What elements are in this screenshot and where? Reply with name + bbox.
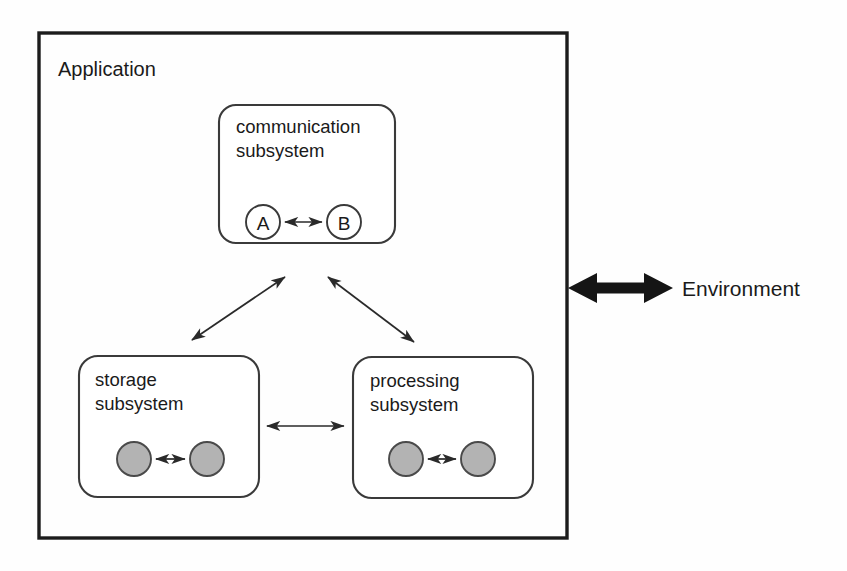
processing-subsystem-label-line2: subsystem xyxy=(370,394,458,415)
processing-subsystem-label-line1: processing xyxy=(370,370,459,391)
storage-subsystem-label-line1: storage xyxy=(95,369,157,390)
communication-subsystem[interactable]: communication subsystem A B xyxy=(219,105,395,243)
communication-processing-connector-arrow xyxy=(328,277,414,342)
communication-subsystem-label-line2: subsystem xyxy=(236,140,324,161)
storage-subsystem-label-line2: subsystem xyxy=(95,393,183,414)
storage-node-1-circle[interactable] xyxy=(117,442,151,476)
communication-storage-connector-arrow xyxy=(192,277,285,340)
application-label: Application xyxy=(58,58,156,80)
environment-arrow xyxy=(568,273,673,303)
processing-node-1-circle[interactable] xyxy=(389,442,423,476)
processing-node-2-circle[interactable] xyxy=(461,442,495,476)
storage-subsystem[interactable]: storage subsystem xyxy=(79,356,259,497)
communication-subsystem-label-line1: communication xyxy=(236,116,360,137)
storage-node-2-circle[interactable] xyxy=(190,442,224,476)
node-b-label: B xyxy=(338,213,351,234)
diagram-canvas: Application communication subsystem A B … xyxy=(0,0,847,571)
node-a-label: A xyxy=(257,213,270,234)
diagram-root: Application communication subsystem A B … xyxy=(0,0,847,571)
processing-subsystem[interactable]: processing subsystem xyxy=(353,357,533,498)
environment-label: Environment xyxy=(682,277,800,300)
